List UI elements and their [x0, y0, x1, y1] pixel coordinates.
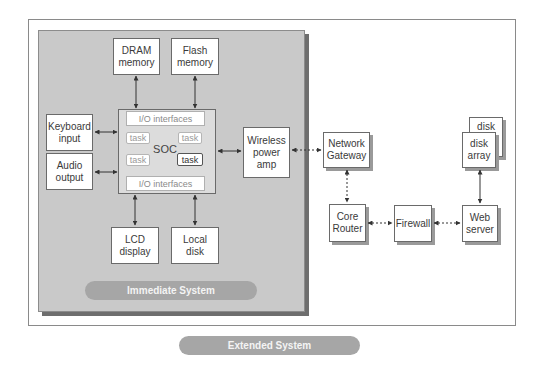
connector-arrows: [0, 0, 541, 365]
immediate-system-label: Immediate System: [85, 281, 257, 300]
extended-system-label: Extended System: [179, 336, 360, 355]
